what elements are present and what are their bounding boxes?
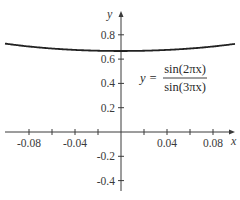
y-tick-label: -0.2 (97, 150, 115, 162)
formula-annotation: y = sin(2πx) sin(3πx) (138, 62, 207, 94)
chart: -0.08-0.040.040.08 0.80.60.40.2-0.2-0.4 … (0, 0, 240, 200)
x-axis-label: x (230, 134, 237, 148)
formula-lhs: y = (138, 71, 157, 85)
formula-numerator: sin(2πx) (164, 62, 206, 76)
x-tick-label: 0.08 (203, 137, 223, 149)
x-tick-label: 0.04 (157, 137, 177, 149)
y-axis-label: y (106, 7, 113, 21)
x-tick-label: -0.08 (17, 137, 41, 149)
y-tick-label: 0.2 (101, 102, 116, 114)
y-tick-label: 0.6 (101, 53, 116, 65)
y-tick-label: 0.4 (101, 77, 116, 89)
formula-denominator: sin(3πx) (164, 80, 206, 94)
y-tick-label: -0.4 (97, 175, 115, 187)
y-tick-label: 0.8 (101, 29, 116, 41)
x-tick-label: -0.04 (63, 137, 87, 149)
y-axis-arrow-icon (119, 11, 124, 17)
y-ticks: 0.80.60.40.2-0.2-0.4 (97, 29, 124, 187)
axes (5, 11, 235, 191)
function-curve (5, 44, 235, 51)
